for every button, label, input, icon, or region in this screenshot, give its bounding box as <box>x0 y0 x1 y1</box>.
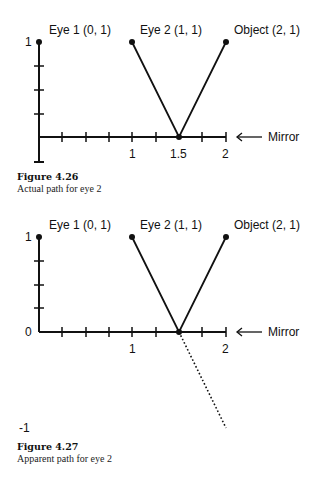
y-tick-label-1: 1 <box>25 230 32 244</box>
y-tick-label-neg1: -1 <box>19 421 30 435</box>
object-point <box>223 234 229 240</box>
eye1-point <box>36 39 42 45</box>
reflection-point <box>176 329 182 335</box>
mirror-label: Mirror <box>268 130 299 144</box>
eye2-point <box>129 39 135 45</box>
eye2-label: Eye 2 (1, 1) <box>140 218 202 232</box>
x-tick-label-2: 2 <box>222 147 229 161</box>
x-tick-label-2: 2 <box>222 342 229 356</box>
x-tick-label-1: 1 <box>129 147 136 161</box>
figures-canvas: Eye 1 (0, 1) Eye 2 (1, 1) Object (2, 1) … <box>0 0 315 478</box>
y-tick-label-1: 1 <box>25 35 32 49</box>
actual-path-line <box>132 237 226 332</box>
figure-4-27: Eye 1 (0, 1) Eye 2 (1, 1) Object (2, 1) … <box>17 218 300 464</box>
reflection-point <box>176 134 182 140</box>
figure-caption-title: Figure 4.26 <box>17 171 79 182</box>
eye1-point <box>36 234 42 240</box>
figure-caption-title: Figure 4.27 <box>17 441 78 452</box>
eye2-point <box>129 234 135 240</box>
x-tick-label-1: 1 <box>129 342 136 356</box>
figure-caption-text: Actual path for eye 2 <box>17 183 101 194</box>
y-tick-label-0: 0 <box>25 325 32 339</box>
apparent-path-line <box>179 332 226 428</box>
mirror-arrow-icon <box>237 328 262 336</box>
object-point <box>223 39 229 45</box>
object-label: Object (2, 1) <box>234 218 300 232</box>
eye1-label: Eye 1 (0, 1) <box>49 218 111 232</box>
actual-path-line <box>132 42 226 137</box>
mirror-arrow-icon <box>237 133 262 141</box>
x-tick-label-1-5: 1.5 <box>170 147 187 161</box>
figure-caption-text: Apparent path for eye 2 <box>17 453 112 464</box>
eye1-label: Eye 1 (0, 1) <box>49 23 111 37</box>
eye2-label: Eye 2 (1, 1) <box>140 23 202 37</box>
figure-4-26: Eye 1 (0, 1) Eye 2 (1, 1) Object (2, 1) … <box>17 23 300 194</box>
mirror-label: Mirror <box>268 325 299 339</box>
object-label: Object (2, 1) <box>234 23 300 37</box>
